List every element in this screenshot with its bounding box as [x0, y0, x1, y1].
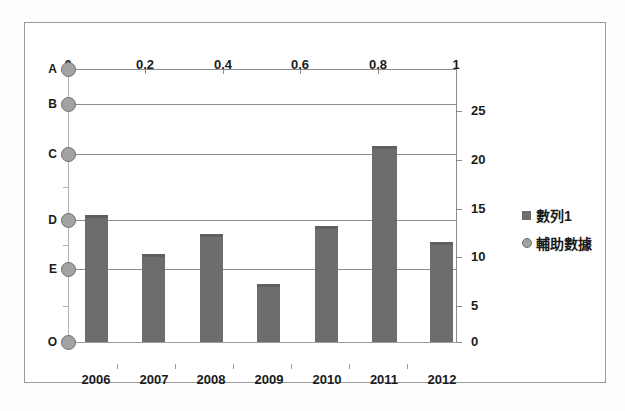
x-axis-tick — [349, 364, 350, 369]
x-axis-tick — [117, 364, 118, 369]
bar-top-highlight — [85, 215, 108, 218]
legend-square-icon — [522, 211, 531, 220]
aux-marker-c[interactable] — [61, 147, 76, 162]
left-axis-label-a: A — [39, 62, 57, 76]
aux-marker-o[interactable] — [61, 335, 76, 350]
left-axis-minor-tick — [63, 187, 69, 188]
right-axis-label-20: 20 — [471, 152, 485, 167]
gridline-c — [68, 154, 456, 155]
left-axis-label-o: O — [39, 335, 57, 349]
bar-top-highlight — [257, 284, 280, 287]
right-axis-tick — [456, 111, 462, 112]
x-axis-tick — [233, 364, 234, 369]
left-axis-label-d: D — [39, 213, 57, 227]
right-axis-label-15: 15 — [471, 201, 485, 216]
right-axis-tick — [456, 160, 462, 161]
x-axis-tick — [291, 364, 292, 369]
legend-label-series1: 數列1 — [536, 205, 572, 225]
bar-top-highlight — [315, 226, 338, 229]
left-axis-label-c: C — [39, 147, 57, 161]
bar-2007[interactable] — [142, 254, 165, 342]
legend-item-series1[interactable]: 數列1 — [522, 201, 622, 229]
right-axis-label-5: 5 — [471, 298, 478, 313]
bar-2008[interactable] — [200, 234, 223, 342]
bar-top-highlight — [200, 234, 223, 237]
x-axis-label-2007: 2007 — [126, 372, 182, 387]
chart-screenshot: 0 0.2 0.4 0.6 0.8 1 A B C D E O — [0, 0, 625, 411]
gridline-d — [68, 220, 456, 221]
x-axis-label-2008: 2008 — [183, 372, 239, 387]
gridline-e — [68, 269, 456, 270]
gridline-b — [68, 104, 456, 105]
left-axis-minor-tick — [63, 306, 69, 307]
chart-legend: 數列1 輔助數據 — [522, 201, 622, 257]
bar-2011[interactable] — [372, 146, 397, 342]
bar-top-highlight — [430, 242, 453, 245]
x-axis-tick — [407, 364, 408, 369]
bar-2009[interactable] — [257, 284, 280, 342]
gridline-o — [68, 342, 456, 343]
x-axis-label-2011: 2011 — [356, 372, 412, 387]
bar-2012[interactable] — [430, 242, 453, 342]
legend-label-series2: 輔助數據 — [536, 233, 592, 253]
right-axis-tick — [456, 306, 462, 307]
right-axis-tick — [456, 209, 462, 210]
left-axis-label-b: B — [39, 97, 57, 111]
bar-2006[interactable] — [85, 215, 108, 342]
x-axis-label-2010: 2010 — [299, 372, 355, 387]
right-axis-label-0: 0 — [471, 334, 478, 349]
aux-marker-a[interactable] — [61, 62, 76, 77]
bar-2010[interactable] — [315, 226, 338, 342]
x-axis-label-2012: 2012 — [414, 372, 470, 387]
x-axis-tick — [175, 364, 176, 369]
left-axis-label-e: E — [39, 262, 57, 276]
right-axis-label-25: 25 — [471, 103, 485, 118]
gridline-a — [68, 69, 456, 70]
left-axis-minor-tick — [63, 245, 69, 246]
x-axis-label-2006: 2006 — [68, 372, 124, 387]
aux-marker-e[interactable] — [61, 262, 76, 277]
right-axis-label-10: 10 — [471, 249, 485, 264]
right-axis-tick — [456, 342, 462, 343]
chart-frame: 0 0.2 0.4 0.6 0.8 1 A B C D E O — [24, 22, 606, 383]
legend-item-series2[interactable]: 輔助數據 — [522, 229, 622, 257]
aux-marker-b[interactable] — [61, 97, 76, 112]
bar-top-highlight — [372, 146, 397, 149]
legend-circle-icon — [522, 238, 532, 248]
x-axis-label-2009: 2009 — [241, 372, 297, 387]
right-axis-tick — [456, 257, 462, 258]
aux-marker-d[interactable] — [61, 213, 76, 228]
bar-top-highlight — [142, 254, 165, 257]
